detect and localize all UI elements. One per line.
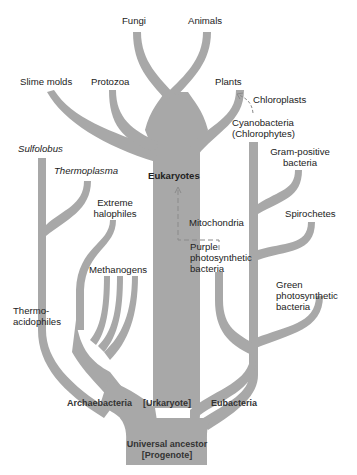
label-green-photosynthetic: Green photosynthetic bacteria <box>276 279 338 312</box>
label-extreme-halophiles: Extreme halophiles <box>92 197 138 219</box>
label-methanogens: Methanogens <box>89 264 147 275</box>
label-plants: Plants <box>215 76 242 87</box>
eukaryote-trunk <box>153 145 200 408</box>
label-archaebacteria: Archaebacteria <box>67 398 132 409</box>
label-gram-positive: Gram-positive bacteria <box>265 146 335 168</box>
branch-slime-molds <box>47 90 158 162</box>
label-thermoacidophiles: Thermo- acidophiles <box>13 305 61 327</box>
label-spirochetes: Spirochetes <box>285 208 336 219</box>
branch-spirochetes <box>258 222 315 260</box>
label-mitochondria: Mitochondria <box>189 217 244 228</box>
label-purple-photosynthetic: Purple photosynthetic bacteria <box>190 241 252 274</box>
label-slime-molds: Slime molds <box>20 76 72 87</box>
label-fungi: Fungi <box>122 15 146 26</box>
branch-halophiles <box>76 220 116 330</box>
label-eukaryotes: Eukaryotes <box>148 170 200 181</box>
label-animals: Animals <box>188 15 222 26</box>
label-cyanobacteria: Cyanobacteria (Chlorophytes) <box>232 117 295 139</box>
label-universal-ancestor: Universal ancestor [Progenote] <box>120 439 214 461</box>
branch-thermoplasma <box>46 181 91 236</box>
label-eubacteria: Eubacteria <box>211 398 257 409</box>
branch-animals <box>168 32 211 95</box>
label-protozoa: Protozoa <box>91 76 129 87</box>
label-thermoplasma: Thermoplasma <box>54 165 118 176</box>
label-urkaryote: [Urkaryote] <box>143 398 191 409</box>
label-sulfolobus: Sulfolobus <box>18 143 63 154</box>
label-chloroplasts: Chloroplasts <box>253 94 306 105</box>
branch-fungi <box>133 32 175 100</box>
